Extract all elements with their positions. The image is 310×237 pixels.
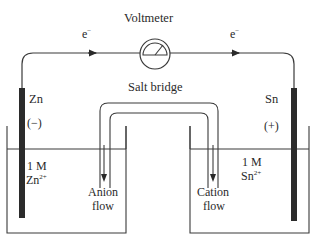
galvanic-cell-diagram: e− e− Voltmeter Salt bridge bbox=[0, 0, 310, 237]
electron-label-left: e− bbox=[82, 27, 91, 41]
tin-polarity-label: (+) bbox=[264, 119, 279, 133]
voltmeter: Voltmeter bbox=[124, 11, 174, 69]
salt-bridge-guides bbox=[126, 126, 190, 149]
tin-electrode-label: Sn bbox=[265, 92, 279, 106]
zinc-polarity-label: (−) bbox=[27, 116, 42, 130]
tin-ion-label: Sn2+ bbox=[241, 169, 261, 183]
electron-arrow-right bbox=[231, 50, 240, 57]
zinc-ion-label: Zn2+ bbox=[26, 173, 47, 187]
salt-bridge bbox=[100, 103, 218, 188]
anion-flow-arrow bbox=[101, 145, 107, 182]
anion-flow-label-2: flow bbox=[92, 199, 114, 213]
tin-concentration-label: 1 M bbox=[242, 155, 262, 169]
cation-flow-label: Cation bbox=[197, 185, 229, 199]
zinc-electrode-label: Zn bbox=[29, 92, 44, 106]
voltmeter-label: Voltmeter bbox=[124, 11, 174, 25]
electron-label-right: e− bbox=[230, 27, 239, 41]
cation-flow-label-2: flow bbox=[203, 199, 225, 213]
zinc-concentration-label: 1 M bbox=[27, 159, 47, 173]
cation-flow-arrow bbox=[210, 145, 216, 182]
salt-bridge-label: Salt bridge bbox=[128, 80, 183, 94]
tin-electrode bbox=[291, 88, 297, 221]
anion-flow-label: Anion bbox=[88, 185, 118, 199]
zinc-electrode bbox=[19, 88, 25, 218]
electron-arrow-left bbox=[88, 50, 97, 57]
